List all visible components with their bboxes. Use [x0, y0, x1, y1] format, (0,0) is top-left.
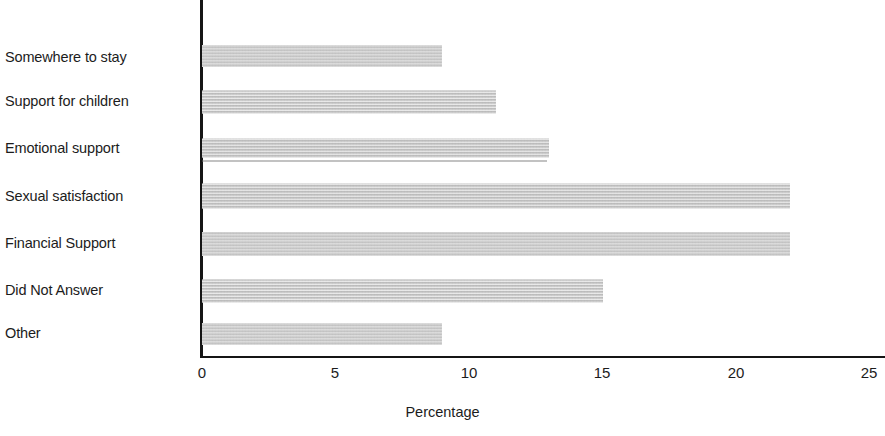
plot-area — [200, 0, 885, 358]
x-tick-25: 25 — [861, 364, 878, 381]
bar-emotional-support — [202, 139, 549, 158]
bar-financial-support — [202, 232, 790, 256]
bar-other — [202, 323, 442, 345]
x-axis-title: Percentage — [0, 404, 885, 420]
bar-support-for-children — [202, 91, 496, 114]
bar-somewhere-to-stay — [202, 45, 442, 67]
x-tick-10: 10 — [461, 364, 478, 381]
category-label-financial-support: Financial Support — [5, 235, 115, 251]
x-tick-0: 0 — [198, 364, 206, 381]
bar-did-not-answer — [202, 280, 603, 303]
x-axis-line — [200, 356, 885, 359]
category-label-did-not-answer: Did Not Answer — [5, 282, 103, 298]
category-label-emotional-support: Emotional support — [5, 140, 119, 156]
x-tick-20: 20 — [728, 364, 745, 381]
scan-artifact-line — [202, 160, 547, 162]
category-label-sexual-satisfaction: Sexual satisfaction — [5, 188, 123, 204]
x-tick-5: 5 — [331, 364, 339, 381]
category-label-support-for-children: Support for children — [5, 93, 129, 109]
category-label-somewhere-to-stay: Somewhere to stay — [5, 49, 127, 65]
bar-sexual-satisfaction — [202, 184, 790, 209]
category-label-other: Other — [5, 325, 41, 341]
bar-chart: Somewhere to stay Support for children E… — [0, 0, 885, 436]
x-tick-15: 15 — [594, 364, 611, 381]
